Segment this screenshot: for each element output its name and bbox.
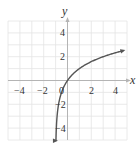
origin-label: 0 [59,85,64,96]
y-tick-label: −4 [55,123,66,134]
x-tick-label: 2 [89,85,94,96]
y-tick-label: −2 [55,99,66,110]
y-tick-label: 2 [60,51,65,62]
function-graph: x y −4 −2 0 2 4 4 2 −2 −4 [0,0,140,149]
y-tick-label: 4 [60,27,65,38]
x-tick-label: −2 [37,85,48,96]
curve-arrow-right-icon [120,49,125,53]
x-tick-label: 4 [113,85,118,96]
x-tick-label: −4 [14,85,25,96]
y-axis-label: y [61,4,68,18]
x-axis-label: x [129,73,136,87]
